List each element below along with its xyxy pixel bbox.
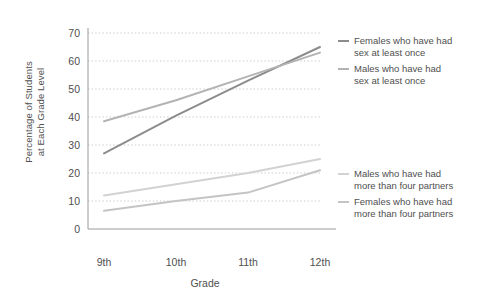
legend-entry: Females who have had more than four part… bbox=[338, 196, 490, 219]
legend-label: Males who have had more than four partne… bbox=[354, 168, 453, 191]
legend-swatch-icon bbox=[338, 201, 349, 203]
legend-label: Females who have had sex at least once bbox=[354, 35, 452, 58]
legend-swatch-icon bbox=[338, 173, 349, 175]
legend-swatch-icon bbox=[338, 68, 349, 70]
legend-entry: Females who have had sex at least once bbox=[338, 35, 490, 58]
x-tick-label: 9th bbox=[97, 256, 112, 268]
chart-legend: Females who have had sex at least once M… bbox=[338, 0, 490, 299]
x-axis-title: Grade bbox=[190, 277, 219, 289]
legend-swatch-icon bbox=[338, 40, 349, 42]
legend-label: Females who have had more than four part… bbox=[354, 196, 453, 219]
x-tick-label: 11th bbox=[238, 256, 258, 268]
legend-entry: Males who have had more than four partne… bbox=[338, 168, 490, 191]
x-tick-label: 12th bbox=[310, 256, 330, 268]
legend-entry: Males who have had sex at least once bbox=[338, 63, 490, 86]
line-chart: Percentage of Students at Each Grade Lev… bbox=[0, 0, 490, 299]
legend-label: Males who have had sex at least once bbox=[354, 63, 441, 86]
x-tick-label: 10th bbox=[166, 256, 186, 268]
